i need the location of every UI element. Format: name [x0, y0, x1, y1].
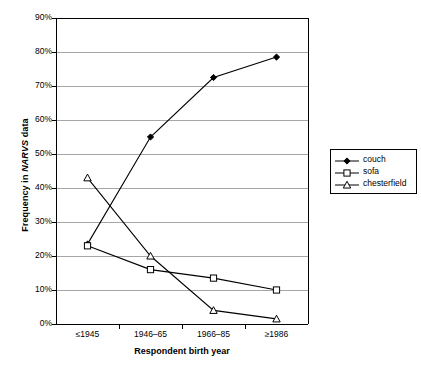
legend-key-open-triangle-icon — [334, 177, 360, 189]
marker-filled-diamond — [273, 54, 279, 60]
legend-item-couch: couch — [331, 153, 416, 165]
chart-legend: couchsofachesterfield — [330, 149, 417, 194]
marker-open-square — [344, 170, 350, 176]
marker-open-square — [273, 287, 279, 293]
series-chesterfield — [84, 174, 280, 322]
series-line-chesterfield — [88, 178, 277, 319]
legend-label: sofa — [360, 166, 379, 176]
legend-label: couch — [360, 154, 386, 164]
series-sofa — [84, 243, 279, 293]
marker-open-square — [84, 243, 90, 249]
x-axis-title: Respondent birth year — [56, 346, 308, 356]
legend-item-chesterfield: chesterfield — [331, 177, 416, 189]
series-couch — [84, 54, 279, 247]
legend-item-sofa: sofa — [331, 165, 416, 177]
legend-label: chesterfield — [360, 178, 406, 188]
line-chart: Frequency in NARVS data 0%10%20%30%40%50… — [0, 0, 421, 369]
series-line-couch — [88, 57, 277, 244]
marker-open-square — [147, 267, 153, 273]
legend-key-filled-diamond-icon — [334, 153, 360, 165]
marker-filled-diamond — [344, 158, 350, 164]
x-tick-label: ≥1986 — [237, 330, 317, 339]
marker-open-square — [210, 275, 216, 281]
legend-key-open-square-icon — [334, 165, 360, 177]
marker-open-triangle — [84, 174, 91, 181]
